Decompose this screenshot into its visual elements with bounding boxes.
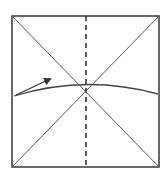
fold-diagram	[0, 0, 168, 180]
